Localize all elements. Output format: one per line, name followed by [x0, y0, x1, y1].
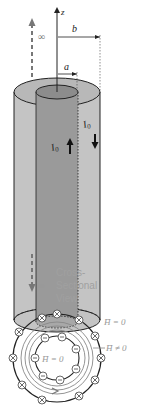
coaxial-diagram: z ∞ b a I0 I0 ∞ Cross- S [0, 0, 147, 419]
infinity-bottom-label: ∞ [38, 281, 44, 291]
h-between-label: H̄ ≠ 0 [105, 343, 127, 353]
b-label: b [72, 23, 77, 34]
inner-conductor [36, 85, 78, 328]
svg-text:Sectional: Sectional [56, 280, 97, 291]
infinity-top-label: ∞ [38, 31, 45, 42]
svg-text:Cross-: Cross- [56, 267, 85, 278]
z-axis-label: z [60, 7, 65, 17]
h-outside-label: H̄ = 0 [103, 317, 126, 327]
infinity-top-arrow [29, 18, 36, 77]
svg-text:View: View [56, 293, 78, 304]
field-direction-arrow-icon [52, 388, 58, 394]
a-label: a [64, 61, 69, 72]
h-inside-label: H̄ = 0 [41, 354, 64, 364]
